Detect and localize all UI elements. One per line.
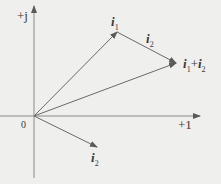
label-sum: i1+i2: [183, 57, 206, 74]
label-i2-translated: i2: [146, 32, 154, 49]
origin-label: 0: [21, 120, 26, 130]
label-i2: i2: [91, 151, 99, 168]
vector-sum: [34, 63, 176, 116]
label-i1: i1: [111, 15, 119, 32]
vertical-axis-label: +j: [17, 9, 28, 22]
vector-i1: [34, 32, 117, 116]
vector-i2: [34, 116, 97, 147]
horizontal-axis-label: +1: [178, 118, 192, 131]
